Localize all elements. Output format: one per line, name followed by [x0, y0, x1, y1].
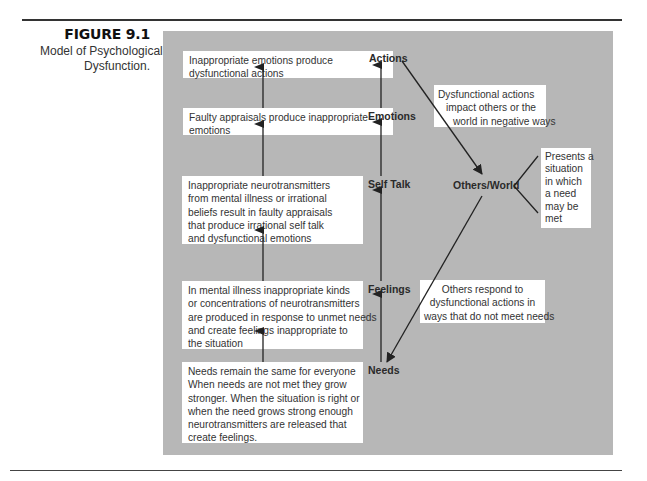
box-line: emotions: [189, 124, 387, 137]
box-line: or concentrations of neurotransmitters: [188, 297, 357, 310]
box-line: Presents a: [545, 151, 587, 163]
box-neurotransmitters-appraisals: Inappropriate neurotransmitters from men…: [182, 176, 363, 244]
box-needs: Needs remain the same for everyone When …: [182, 362, 363, 443]
box-line: a need: [545, 188, 587, 200]
box-line: met: [545, 213, 587, 225]
box-line: Faulty appraisals produce inappropriate: [189, 111, 387, 124]
box-line: beliefs result in faulty appraisals: [188, 206, 357, 219]
box-line: and create feelings inappropriate to: [188, 324, 357, 337]
box-line: the situation: [188, 337, 357, 350]
figure-number: FIGURE 9.1: [64, 26, 150, 42]
box-mental-illness-feelings: In mental illness inappropriate kinds or…: [182, 281, 363, 349]
box-line: In mental illness inappropriate kinds: [188, 284, 357, 297]
box-line: and dysfunctional emotions: [188, 232, 357, 245]
box-line: create feelings.: [188, 431, 357, 444]
box-line: dysfunctional actions in: [424, 296, 541, 309]
box-line: that produce irrational self talk: [188, 219, 357, 232]
box-line: dysfunctional actions: [189, 67, 387, 80]
stage-actions: Actions: [369, 52, 408, 64]
box-appraisals-produce-emotions: Faulty appraisals produce inappropriate …: [183, 108, 393, 135]
box-line: may be: [545, 201, 587, 213]
stage-others-world: Others/World: [453, 179, 519, 191]
box-line: in which: [545, 176, 587, 188]
box-line: Others respond to: [424, 283, 541, 296]
box-line: When needs are not met they grow: [188, 378, 357, 391]
box-others-respond: Others respond to dysfunctional actions …: [420, 280, 545, 323]
bottom-rule: [10, 470, 622, 471]
stage-needs: Needs: [368, 364, 400, 376]
box-line: stronger. When the situation is right or: [188, 392, 357, 405]
box-line: Inappropriate neurotransmitters: [188, 179, 357, 192]
box-line: impact others or the: [438, 101, 542, 114]
top-rule: [22, 19, 622, 21]
box-impact-others: Dysfunctional actions impact others or t…: [434, 85, 546, 127]
box-emotions-produce-actions: Inappropriate emotions produce dysfuncti…: [183, 51, 393, 78]
box-line: neurotransmitters are released that: [188, 418, 357, 431]
box-line: when the need grows strong enough: [188, 405, 357, 418]
box-presents-situation: Presents a situation in which a need may…: [541, 148, 591, 228]
box-line: from mental illness or irrational: [188, 192, 357, 205]
box-line: Needs remain the same for everyone: [188, 365, 357, 378]
box-line: are produced in response to unmet needs: [188, 311, 357, 324]
box-line: world in negative ways: [438, 115, 542, 128]
box-line: ways that do not meet needs: [424, 310, 541, 323]
stage-self-talk: Self Talk: [368, 178, 410, 190]
caption-line: Model of Psychological: [40, 44, 150, 59]
caption-line: Dysfunction.: [40, 59, 150, 74]
box-line: Dysfunctional actions: [438, 88, 542, 101]
box-line: situation: [545, 163, 587, 175]
stage-feelings: Feelings: [368, 283, 411, 295]
figure-caption: Model of Psychological Dysfunction.: [40, 44, 150, 74]
stage-emotions: Emotions: [368, 110, 416, 122]
box-line: Inappropriate emotions produce: [189, 54, 387, 67]
